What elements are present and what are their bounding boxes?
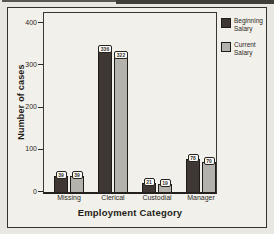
x-category-label-custodial: Custodial [135,194,179,202]
x-category-label-missing: Missing [47,194,91,202]
y-tick-mark [38,191,43,192]
y-tick-label: 0 [14,188,37,196]
scan-artifact-top-band [116,0,274,4]
bar-value-label: 70 [204,157,215,165]
bar-current-salary-manager [202,162,216,192]
legend: Beginning SalaryCurrent Salary [221,17,263,65]
x-axis-title: Employment Category [50,207,210,218]
x-category-label-clerical: Clerical [91,194,135,202]
bar-value-label: 39 [56,171,67,179]
legend-item-beginning-salary: Beginning Salary [221,17,263,32]
y-tick-label: 300 [14,61,37,69]
legend-swatch [221,18,231,28]
bar-beginning-salary-manager [186,159,200,192]
y-tick-label: 200 [14,103,37,111]
y-tick-label: 100 [14,145,37,153]
bar-value-label: 336 [98,45,112,53]
chart-figure: Number of cases 393362178393221970 40030… [7,7,267,228]
y-tick-label: 400 [14,19,37,27]
bar-value-label: 39 [72,171,83,179]
y-tick-mark [38,149,43,150]
x-category-label-manager: Manager [179,194,223,202]
y-tick-mark [38,22,43,23]
bar-value-label: 78 [188,154,199,162]
bar-value-label: 21 [144,178,155,186]
legend-label: Beginning Salary [234,17,263,32]
legend-swatch [221,42,231,52]
plot-area: 393362178393221970 [43,12,217,194]
y-tick-mark [38,107,43,108]
bar-beginning-salary-clerical [98,50,112,192]
legend-label: Current Salary [234,41,256,56]
bar-value-label: 322 [114,51,128,59]
bar-current-salary-clerical [114,56,128,192]
legend-item-current-salary: Current Salary [221,41,263,56]
y-tick-mark [38,64,43,65]
bar-value-label: 19 [160,179,171,187]
